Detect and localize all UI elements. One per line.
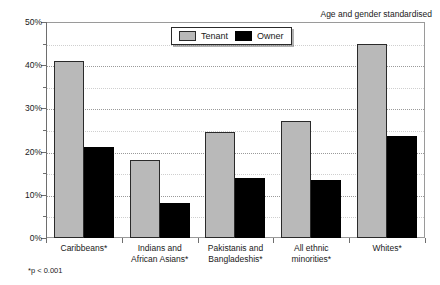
- standardised-note: Age and gender standardised: [320, 9, 432, 19]
- bar-group: [198, 22, 274, 238]
- x-axis-label: All ethnic minorities*: [273, 243, 349, 265]
- legend-item-owner: Owner: [235, 31, 284, 41]
- bar-owner: [84, 147, 114, 238]
- x-tick: [425, 238, 426, 243]
- cropped-text-sliver: [0, 0, 440, 6]
- bars-layer: [46, 22, 425, 238]
- legend-label-owner: Owner: [257, 31, 284, 41]
- legend-label-tenant: Tenant: [201, 31, 228, 41]
- x-axis-label: Whites*: [349, 243, 425, 254]
- y-axis-label: 40%: [16, 60, 42, 70]
- bar-tenant: [357, 44, 387, 238]
- bar-owner: [160, 203, 190, 238]
- bar-tenant: [54, 61, 84, 238]
- bar-owner: [311, 180, 341, 238]
- y-axis-label: 0%: [16, 233, 42, 243]
- bar-tenant: [281, 121, 311, 238]
- bar-group: [273, 22, 349, 238]
- y-axis-label: 50%: [16, 17, 42, 27]
- x-axis-labels: Caribbeans*Indians andAfrican Asians*Pak…: [46, 243, 425, 277]
- y-axis-labels: 0%10%20%30%40%50%: [12, 22, 42, 238]
- legend-swatch-owner: [235, 31, 252, 41]
- significance-footnote: *p < 0.001: [28, 266, 62, 275]
- chart-legend: Tenant Owner: [171, 27, 292, 45]
- y-axis-label: 20%: [16, 147, 42, 157]
- bar-tenant: [205, 132, 235, 238]
- x-axis-label: Caribbeans*: [46, 243, 122, 254]
- legend-item-tenant: Tenant: [179, 31, 228, 41]
- bar-group: [349, 22, 425, 238]
- legend-swatch-tenant: [179, 31, 196, 41]
- x-axis-label: Indians andAfrican Asians*: [122, 243, 198, 265]
- x-axis-label: Pakistanis andBangladeshis*: [198, 243, 274, 265]
- bar-owner: [387, 136, 417, 238]
- bar-chart: Age and gender standardised 0%10%20%30%4…: [0, 0, 440, 285]
- y-axis-label: 30%: [16, 103, 42, 113]
- bar-owner: [235, 178, 265, 238]
- bar-tenant: [130, 160, 160, 238]
- y-axis-label: 10%: [16, 190, 42, 200]
- bar-group: [46, 22, 122, 238]
- bar-group: [122, 22, 198, 238]
